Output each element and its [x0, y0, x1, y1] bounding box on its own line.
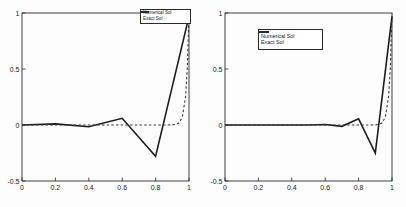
x-tick-label: 0.8: [151, 184, 161, 191]
x-tick-label: 1: [390, 184, 394, 191]
x-tick-label: 0: [20, 184, 24, 191]
x-tick-label: 0.6: [320, 184, 330, 191]
legend-item: Exact Sol: [261, 40, 319, 45]
x-tick-label: 0.4: [287, 184, 297, 191]
x-tick-label: 0.8: [354, 184, 364, 191]
x-tick-label: 0.6: [117, 184, 127, 191]
y-tick-label: 1: [219, 10, 223, 17]
x-tick-label: 0.4: [84, 184, 94, 191]
x-tick-label: 0.2: [51, 184, 61, 191]
x-tick-label: 1: [187, 184, 191, 191]
legend-item: Exact Sol: [143, 17, 187, 22]
exact-solution-line: [22, 13, 189, 125]
chart-right-fine-mesh: 00.20.40.60.81-0.500.51Numerical SolExac…: [203, 0, 406, 207]
y-tick-label: -0.5: [210, 178, 222, 185]
chart-left-coarse-mesh: 00.20.40.60.81-0.500.51Numerical SolExac…: [0, 0, 203, 207]
axes-box: [22, 13, 189, 181]
x-tick-label: 0: [223, 184, 227, 191]
legend-item-label: Exact Sol: [143, 17, 162, 22]
y-tick-label: 0: [16, 122, 20, 129]
legend-item-label: Exact Sol: [261, 40, 284, 45]
y-tick-label: 1: [16, 10, 20, 17]
chart-canvas: 00.20.40.60.81-0.500.51: [0, 0, 203, 207]
legend-box: Numerical SolExact Sol: [140, 9, 191, 24]
legend-box: Numerical SolExact Sol: [258, 29, 323, 50]
figure-panel: 00.20.40.60.81-0.500.51Numerical SolExac…: [0, 0, 406, 207]
y-tick-label: -0.5: [7, 178, 19, 185]
x-tick-label: 0.2: [254, 184, 264, 191]
dashed-line-sample-icon: [259, 30, 269, 34]
y-tick-label: 0.5: [213, 66, 223, 73]
numerical-solution-line: [22, 16, 189, 156]
y-tick-label: 0.5: [10, 66, 20, 73]
dashed-line-sample-icon: [141, 10, 149, 14]
y-tick-label: 0: [219, 122, 223, 129]
